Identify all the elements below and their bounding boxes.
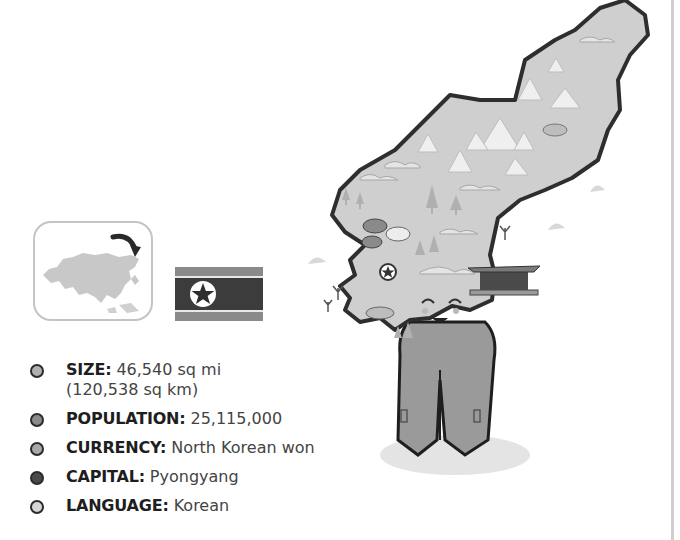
north-korea-flag — [175, 267, 263, 321]
fact-value: Korean — [174, 496, 230, 515]
fact-label: CURRENCY: — [66, 438, 166, 457]
asia-locator-map — [33, 221, 153, 321]
fact-value: 46,540 sq mi — [116, 360, 221, 379]
character-legs — [398, 322, 495, 455]
fact-label: POPULATION: — [66, 409, 185, 428]
bullet-icon — [30, 442, 44, 456]
bullet-icon — [30, 364, 44, 378]
fact-label: LANGUAGE: — [66, 496, 169, 515]
fact-value: North Korean won — [171, 438, 314, 457]
fact-label: SIZE: — [66, 360, 111, 379]
fact-value-metric: (120,538 sq km) — [66, 380, 198, 399]
fact-value: 25,115,000 — [190, 409, 282, 428]
fact-label: CAPITAL: — [66, 467, 145, 486]
asia-map-icon — [35, 223, 155, 323]
bullet-icon — [30, 471, 44, 485]
bullet-icon — [30, 500, 44, 514]
fact-currency: CURRENCY:North Korean won — [30, 438, 315, 467]
fact-value: Pyongyang — [150, 467, 239, 486]
fact-size: SIZE:46,540 sq mi (120,538 sq km) — [30, 360, 315, 409]
fact-language: LANGUAGE:Korean — [30, 496, 315, 525]
fact-population: POPULATION:25,115,000 — [30, 409, 315, 438]
capital-star-icon — [380, 264, 396, 280]
fact-capital: CAPITAL:Pyongyang — [30, 467, 315, 496]
north-korea-map-character — [300, 0, 672, 480]
bullet-icon — [30, 413, 44, 427]
country-facts-list: SIZE:46,540 sq mi (120,538 sq km) POPULA… — [30, 360, 315, 525]
